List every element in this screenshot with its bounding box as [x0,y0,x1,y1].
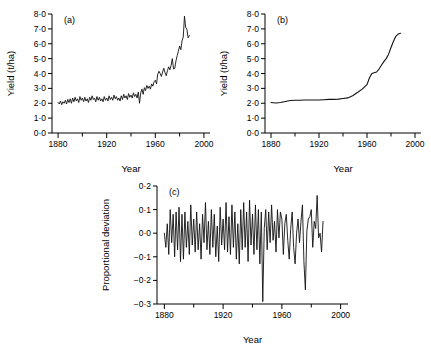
y-tick-label: 4·0 [34,69,47,79]
x-tick-label: 1960 [272,310,291,320]
x-tick-label: 1880 [49,139,68,149]
y-tick-label: 1·0 [34,113,47,123]
x-tick-label: 1920 [310,139,329,149]
panel-b-yield-smoothed: 0·01·02·03·04·05·06·07·08·01880192019602… [213,0,431,175]
y-tick-label: 0·0 [247,128,260,138]
x-tick-label: 1960 [146,139,165,149]
y-tick-label: −0·1 [134,252,152,262]
y-tick-label: 7·0 [34,24,47,34]
y-tick-label: 3·0 [247,83,260,93]
y-tick-label: 1·0 [247,113,260,123]
y-tick-label: 0·1 [139,205,152,215]
y-tick-label: 0·2 [139,181,152,191]
y-tick-label: 5·0 [247,54,260,64]
y-tick-label: 6·0 [247,39,260,49]
x-tick-label: 1880 [155,310,174,320]
y-tick-label: 3·0 [34,83,47,93]
y-tick-label: 7·0 [247,24,260,34]
data-series-line [164,195,323,301]
y-tick-label: 8·0 [247,9,260,19]
data-series-line [58,16,189,105]
y-tick-label: 5·0 [34,54,47,64]
y-tick-label: 2·0 [34,98,47,108]
x-tick-label: 2000 [194,139,213,149]
x-tick-label: 1960 [358,139,377,149]
y-tick-label: 4·0 [247,69,260,79]
y-tick-label: 0·0 [34,128,47,138]
y-tick-label: 0·0 [139,228,152,238]
panel-b-svg: 0·01·02·03·04·05·06·07·08·01880192019602… [213,0,431,175]
x-tick-label: 1920 [97,139,116,149]
x-tick-label: 1880 [262,139,281,149]
panel-label: (a) [64,15,75,25]
panel-label: (c) [169,187,180,197]
y-tick-label: 8·0 [34,9,47,19]
data-series-line [271,33,401,103]
y-tick-label: 6·0 [34,39,47,49]
panel-c-svg: −0·3−0·2−0·10·00·10·21880192019602000Yea… [95,172,360,346]
y-tick-label: −0·2 [134,275,152,285]
y-tick-label: −0·3 [134,299,152,309]
panel-c-proportional-deviation: −0·3−0·2−0·10·00·10·21880192019602000Yea… [95,172,360,346]
panel-label: (b) [277,15,288,25]
x-tick-label: 2000 [406,139,425,149]
panel-a-yield-raw: 0·01·02·03·04·05·06·07·08·01880192019602… [0,0,220,175]
x-tick-label: 2000 [331,310,350,320]
y-tick-label: 2·0 [247,98,260,108]
y-axis-title: Proportional deviation [100,199,111,291]
x-tick-label: 1920 [214,310,233,320]
y-axis-title: Yield (t/ha) [5,51,16,97]
y-axis-title: Yield (t/ha) [218,51,229,97]
panel-a-svg: 0·01·02·03·04·05·06·07·08·01880192019602… [0,0,220,175]
x-axis-title: Year [243,334,262,345]
